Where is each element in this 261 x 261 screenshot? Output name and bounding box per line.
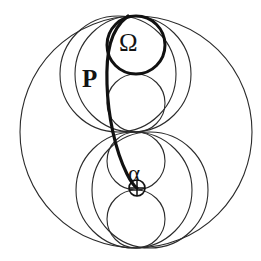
upper-left-medium-circle bbox=[60, 16, 176, 132]
geometry-figure: Ω P α bbox=[0, 0, 261, 261]
chain-circle-4 bbox=[107, 190, 165, 248]
chain-circle-2 bbox=[107, 74, 165, 132]
label-p: P bbox=[82, 66, 97, 91]
label-omega: Ω bbox=[119, 30, 138, 55]
label-alpha: α bbox=[128, 162, 140, 185]
